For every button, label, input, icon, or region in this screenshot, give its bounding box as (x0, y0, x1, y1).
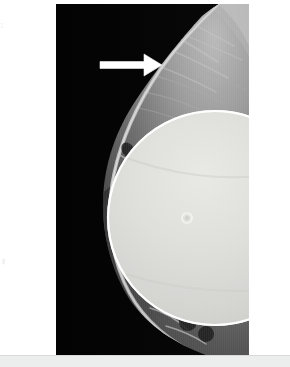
film-marker-top: ⌶ (0, 22, 4, 29)
film-marker-mid: ⦀ (2, 258, 5, 265)
figure-root: ⌶ ⦀ (0, 0, 290, 367)
mammogram-image (56, 4, 249, 355)
page-left-margin (0, 0, 56, 356)
page-footer-strip (0, 356, 290, 367)
page-right-margin (249, 0, 290, 356)
radiograph-panel[interactable] (56, 4, 249, 355)
